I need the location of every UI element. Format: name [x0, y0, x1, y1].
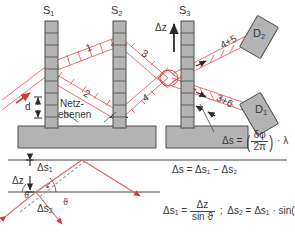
crystal-s3 — [181, 21, 194, 128]
detector-label-d2: D2 — [253, 28, 265, 40]
lattice-planes-label-line2: ebenen — [58, 110, 91, 120]
output-direction-arrows — [196, 61, 215, 116]
crystal-base-left — [18, 126, 156, 148]
formula-ds-difference: Δs = Δs₁ − Δs₂ — [172, 165, 237, 175]
crystal-s1 — [45, 21, 58, 128]
figure-canvas: S1 S2 S3 D2 D1 1 2 3 4 4+5 3+6 Δz d Netz… — [0, 0, 295, 232]
inset-angle-label-right: ϑ — [63, 198, 68, 207]
delta-z-top-label: Δz — [155, 23, 167, 33]
lattice-spacing-label: d — [25, 102, 31, 112]
lattice-spacing-d-arrows — [34, 97, 42, 118]
formula-ds-phase: Δs = (δφ2π) · λ — [222, 130, 288, 152]
crystal-label-s3: S3 — [179, 5, 191, 17]
beam-direction-arrows — [16, 86, 196, 103]
crystal-label-s2: S2 — [111, 5, 123, 17]
diagram-svg — [0, 0, 295, 232]
inset-angle-label-left: ϑ — [24, 191, 29, 200]
crystal-s2 — [113, 21, 126, 128]
inset-label-dz: Δz — [12, 176, 24, 186]
formula-ds1: Δs1 = Δzsin ϑ ; Δs2 = Δs1 · sin(90°−2ϑ) — [163, 200, 295, 222]
detector-label-d1: D1 — [255, 104, 267, 116]
geometry-inset-dims — [26, 160, 34, 192]
crystal-label-s1: S1 — [43, 5, 55, 17]
inset-label-ds1: Δs1 — [37, 163, 52, 174]
inset-label-ds2: Δs2 — [37, 204, 52, 215]
lattice-planes-label-line1: Netz- — [60, 99, 84, 109]
